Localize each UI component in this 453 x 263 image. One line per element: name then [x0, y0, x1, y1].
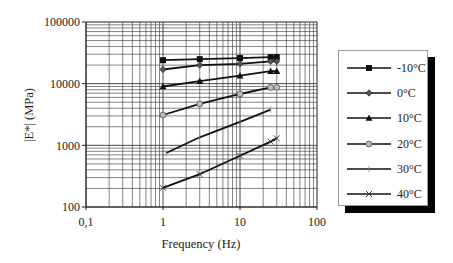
series-line — [160, 135, 280, 190]
triangle-marker-icon — [347, 111, 391, 125]
legend-label: 30°C — [397, 162, 422, 177]
legend: -10°C 0°C 10°C 20°C 30°C 40°C — [338, 50, 428, 206]
x-tick-label: 0,1 — [79, 215, 94, 229]
x-tick-label: 10 — [234, 215, 246, 229]
legend-item-minus10c: -10°C — [347, 61, 427, 75]
grid-lines — [86, 22, 317, 207]
legend-item-10c: 10°C — [347, 111, 427, 125]
legend-label: -10°C — [397, 61, 426, 76]
data-series — [160, 54, 281, 191]
legend-label: 10°C — [397, 111, 422, 126]
series-line — [160, 68, 281, 90]
y-axis-title: |E*| (MPa) — [22, 88, 36, 142]
legend-label: 20°C — [397, 137, 422, 152]
circle-marker-icon — [347, 137, 391, 151]
legend-label: 0°C — [397, 86, 416, 101]
x-axis-title: Frequency (Hz) — [162, 237, 241, 251]
x-marker-icon — [347, 187, 391, 201]
square-marker-icon — [347, 61, 391, 75]
y-tick-label: 100 — [62, 200, 80, 214]
x-tick-label: 1 — [160, 215, 166, 229]
legend-item-40c: 40°C — [347, 187, 427, 201]
legend-item-20c: 20°C — [347, 137, 427, 151]
y-tick-label: 1000 — [56, 139, 80, 153]
x-axis-ticks: 0,1 1 10 100 — [79, 215, 327, 229]
diamond-marker-icon — [347, 86, 391, 100]
plus-marker-icon — [347, 162, 391, 176]
y-axis-ticks: 100000 10000 1000 100 — [44, 15, 80, 214]
x-tick-label: 100 — [308, 215, 326, 229]
legend-item-30c: 30°C — [347, 162, 427, 176]
legend-item-0c: 0°C — [347, 86, 427, 100]
y-tick-label: 100000 — [44, 15, 80, 29]
legend-label: 40°C — [397, 187, 422, 202]
y-tick-label: 10000 — [50, 77, 80, 91]
